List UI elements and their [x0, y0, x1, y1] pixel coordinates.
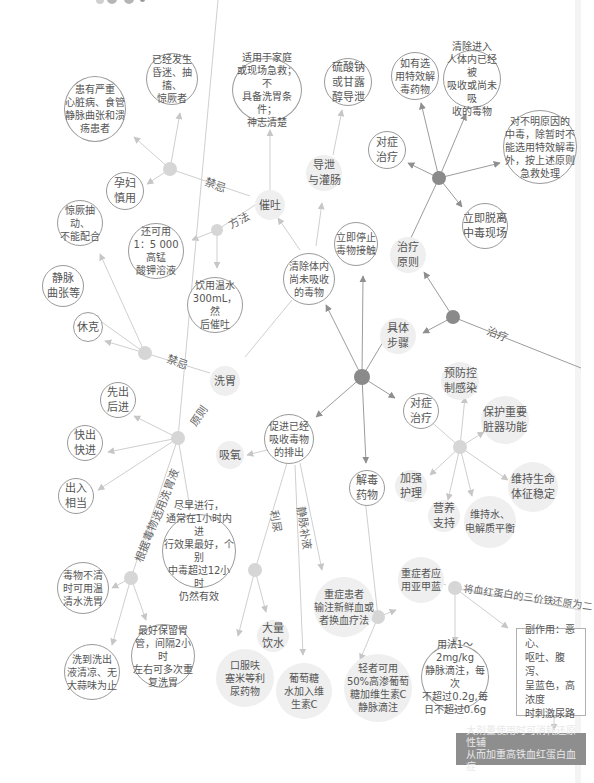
node-high-dose-warning: 大剂量使用时可消耗还原性辅 从而加重高铁血红蛋白血症 — [456, 733, 586, 765]
node-leave-scene: 立即脱离 中毒现场 — [462, 203, 508, 249]
node-dosage: 用法1～2mg/kg 静脉滴注，每次 不超过0.2g,每 日不超过0.6g — [421, 644, 489, 710]
principle-hub — [432, 171, 446, 185]
node-varices: 静脉 曲张等 — [42, 265, 84, 307]
node-gastric-lavage: 洗胃 — [210, 366, 240, 396]
hub-dot — [124, 571, 138, 585]
node-oxygen: 吸氧 — [216, 441, 244, 469]
hub-dot — [163, 162, 177, 176]
node-promote-excretion: 促进已经 吸收毒物 的排出 — [264, 414, 314, 464]
node-already-coma: 已经发生 昏迷、抽搐、 惊厥者 — [146, 53, 198, 105]
hub-dot — [453, 440, 467, 454]
node-shock: 休克 — [73, 312, 103, 342]
node-stop-contact: 立即停止 毒物接触 — [334, 222, 378, 266]
node-unknown-cause: 对不明原因的 中毒，除暂时不 能选用特效解毒 外，按上述原则 急救处理 — [503, 110, 577, 184]
node-purgation: 导泄 与灌肠 — [306, 155, 342, 191]
node-glucose-vitc: 葡萄糖 水加入维 生素C — [276, 663, 332, 719]
node-emesis: 催吐 — [255, 190, 285, 220]
node-fluid-electrolyte: 维持水、 电解质平衡 — [464, 496, 516, 548]
hub-dot — [211, 224, 223, 236]
node-blood-transfusion: 重症患者 输注新鲜血或 者换血疗法 — [314, 577, 374, 637]
node-side-effects: 副作用：恶心、 呕吐、腹泻、 呈蓝色，高浓度 时刺激尿路 — [516, 628, 586, 716]
node-fast-in-out: 快出 快进 — [67, 425, 103, 461]
node-drink-plenty: 大量 饮水 — [257, 620, 289, 652]
hub-dot — [448, 581, 462, 595]
hub-dot — [138, 346, 152, 360]
node-nursing: 加强 护理 — [395, 470, 427, 502]
node-unknown-poison-warm-water: 毒物不清 时可用温 清水洗胃 — [57, 562, 109, 614]
node-potassium-permanganate: 还可用 1：5 000高锰 酸钾溶液 — [128, 223, 184, 279]
node-oral-furosemide: 口服呋 塞米等利 尿药物 — [216, 649, 274, 707]
node-treatment-principle: 治疗 原则 — [390, 237, 426, 273]
node-infection-control: 预防控 制感染 — [441, 362, 479, 400]
node-as-early-as-possible: 尽早进行， 通常在1小时内进 行效果最好，个别 中毒超过12小时 仍然有效 — [162, 514, 236, 588]
node-symptomatic-mid: 对症 治疗 — [403, 393, 439, 429]
node-specific-steps: 具体 步骤 — [380, 318, 416, 354]
node-specific-antidote: 如有选 用特效解 毒药物 — [391, 52, 439, 100]
node-out-before-in: 先出 后进 — [100, 382, 136, 418]
node-balanced-in-out: 出入 相当 — [58, 478, 94, 514]
node-wash-until-clear: 洗到洗出 液清凉、无 大蒜味为止 — [64, 644, 120, 700]
node-mild-glucose: 轻者可用 50%高渗葡萄 糖加维生素C 静脉滴注 — [344, 654, 412, 722]
node-methylene-blue: 重症者应 用亚甲蓝 — [398, 557, 444, 603]
node-remove-absorbed: 清除进入 人体内已经被 吸收或尚未吸 收的毒物 — [443, 50, 501, 108]
node-keep-gastric-tube: 最好保留胃 管，间隔2小时 左右可多次重 复洗胃 — [131, 624, 195, 688]
node-pregnant-caution: 孕妇 慎用 — [106, 172, 144, 210]
treatment-hub — [446, 310, 460, 324]
node-sodium-sulfate: 硫酸钠 或甘露 醇导泄 — [324, 58, 372, 106]
node-symptomatic-top: 对症 治疗 — [368, 131, 406, 169]
hub-dot — [171, 431, 185, 445]
node-remove-unabsorbed: 清除体内 尚未吸收 的毒物 — [283, 253, 335, 305]
node-severe-heart-disease: 患有严重 心脏病、食管 静脉曲张和溃 疡患者 — [64, 76, 126, 142]
node-home-first-aid: 适用于家庭 或现场急救；不 具备洗胃条件； 神志清楚 — [232, 58, 302, 122]
node-convulsion: 惊厥抽动、 不能配合 — [57, 200, 103, 246]
hub-dot — [248, 563, 262, 577]
node-organ-protection: 保护重要 脏器功能 — [481, 396, 529, 444]
node-antidote-drugs: 解毒 药物 — [349, 470, 385, 506]
node-vital-signs: 维持生命 体征稳定 — [508, 462, 558, 512]
node-drink-warm-water: 饮用温水 300mL，然 后催吐 — [187, 277, 243, 333]
node-nutrition: 营养 支持 — [428, 500, 460, 532]
central-hub — [354, 369, 370, 385]
